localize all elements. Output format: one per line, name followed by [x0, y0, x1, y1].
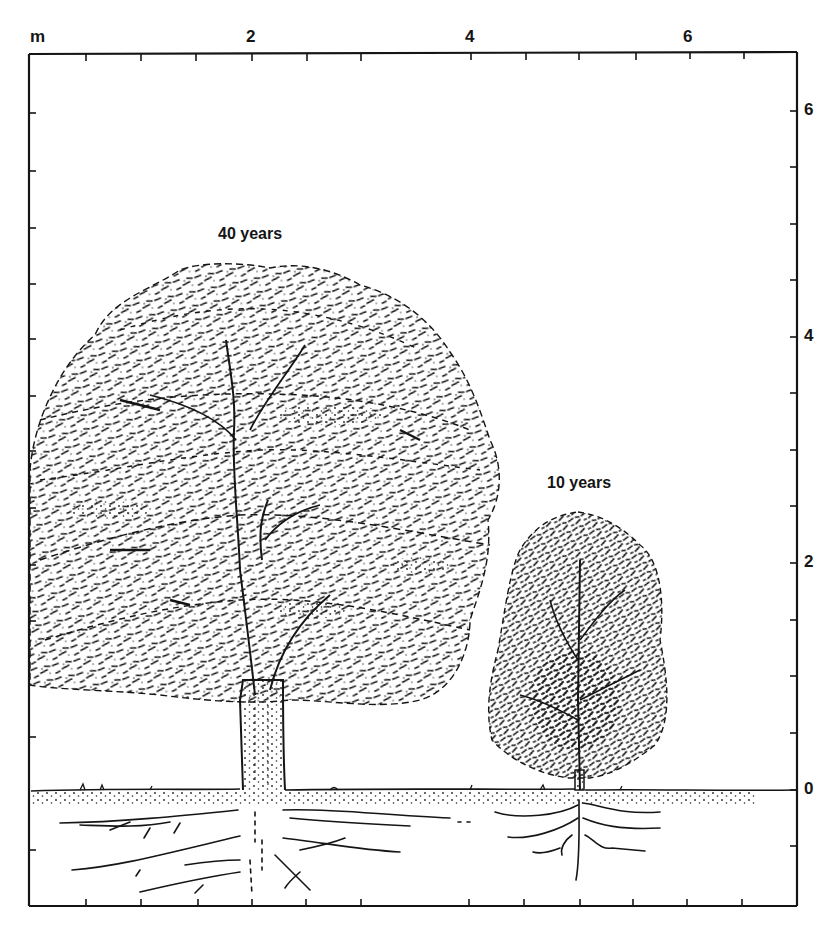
tree-40-crown	[30, 264, 499, 705]
top-tick-label-4: 4	[465, 27, 474, 47]
ground-surface	[31, 784, 797, 804]
right-tick-label-6: 6	[804, 100, 813, 120]
tree-40-roots	[60, 810, 470, 895]
top-tick-label-2: 2	[246, 27, 255, 47]
tree-10-trunk	[575, 770, 584, 790]
right-tick-label-2: 2	[804, 552, 813, 572]
tree-40-trunk	[240, 680, 285, 790]
unit-label: m	[30, 27, 45, 47]
right-tick-label-0: 0	[804, 779, 813, 799]
tree-label-10-years: 10 years	[547, 474, 611, 492]
tree-10-years	[489, 512, 667, 790]
tree-10-roots	[495, 800, 660, 880]
top-tick-label-6: 6	[683, 27, 692, 47]
tree-40-years	[30, 264, 499, 790]
tree-growth-figure	[0, 0, 828, 934]
tree-label-40-years: 40 years	[218, 225, 282, 243]
right-tick-label-4: 4	[804, 326, 813, 346]
